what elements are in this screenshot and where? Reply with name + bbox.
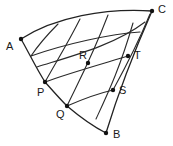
geometry-figure: ACTRPSQB <box>0 0 173 146</box>
fanline-4-near-C <box>113 14 150 90</box>
point-label-s: S <box>119 85 126 96</box>
point-label-b: B <box>113 129 120 140</box>
point-label-r: R <box>79 50 87 61</box>
vertex-dot-r <box>86 61 90 65</box>
boundary-curves <box>21 10 152 133</box>
arc-P-to-Q <box>45 82 67 106</box>
vertex-dot-c <box>150 9 154 13</box>
vertex-dot-q <box>65 104 69 108</box>
arc-B-to-C-right <box>106 11 152 133</box>
diagram-canvas <box>0 0 173 146</box>
vertex-dot-t <box>126 54 130 58</box>
vertex-dot-p <box>43 80 47 84</box>
point-label-c: C <box>158 4 166 15</box>
point-label-a: A <box>6 41 13 52</box>
point-label-t: T <box>134 50 141 61</box>
fan-lines <box>31 14 150 119</box>
fanline-2-from-Q <box>67 15 108 106</box>
vertex-dot-a <box>19 37 23 41</box>
point-label-p: P <box>37 87 44 98</box>
edge-A-to-P-left <box>21 39 45 82</box>
vertex-dot-b <box>104 131 108 135</box>
vertex-dot-s <box>111 88 115 92</box>
point-label-q: Q <box>56 109 65 120</box>
